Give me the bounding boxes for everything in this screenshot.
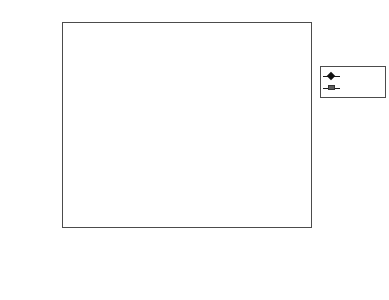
chart-title [0, 0, 389, 1]
chart-root [0, 0, 389, 300]
data-series-layer [63, 23, 311, 227]
diamond-marker-icon [323, 71, 340, 81]
y-axis-labels [0, 22, 58, 228]
x-axis-labels [62, 229, 312, 300]
legend-item-bh [323, 70, 382, 82]
square-marker-icon [323, 83, 340, 93]
chart-legend [320, 66, 386, 98]
plot-area [62, 22, 312, 228]
legend-item-sp500 [323, 82, 382, 94]
